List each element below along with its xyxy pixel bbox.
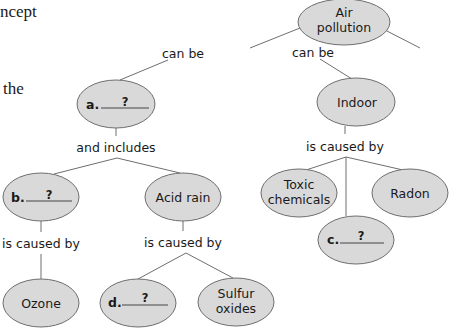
concept-map: Air pollution can be can be and includes… [0, 0, 451, 334]
link-is-caused-by-indoor: is caused by [306, 139, 384, 154]
node-d-question-mark: ? [142, 291, 149, 305]
node-air-pollution-line2: pollution [317, 20, 371, 35]
node-acid-rain: Acid rain [145, 173, 221, 221]
link-and-includes: and includes [76, 140, 155, 155]
node-c-question-mark: ? [358, 229, 365, 243]
link-is-caused-by-b: is caused by [2, 236, 80, 251]
node-ozone-label: Ozone [21, 296, 61, 311]
node-indoor: Indoor [317, 78, 395, 126]
node-radon-label: Radon [390, 186, 430, 201]
node-c-letter: c. [327, 232, 339, 247]
node-acid-rain-label: Acid rain [156, 190, 211, 205]
node-toxic-chemicals-line1: Toxic [283, 177, 315, 192]
node-sulfur-oxides-line2: oxides [216, 301, 256, 316]
node-radon: Radon [372, 169, 448, 217]
node-c-blank[interactable]: c. ? [318, 216, 394, 264]
node-air-pollution-line1: Air [335, 5, 353, 20]
node-b-question-mark: ? [46, 188, 53, 202]
node-indoor-label: Indoor [337, 95, 378, 110]
node-b-letter: b. [11, 190, 25, 205]
node-ozone: Ozone [3, 279, 79, 327]
node-b-blank[interactable]: b. ? [3, 173, 79, 221]
node-air-pollution: Air pollution [298, 0, 390, 45]
node-a-blank[interactable]: a. ? [77, 80, 155, 128]
node-a-letter: a. [86, 97, 99, 112]
node-toxic-chemicals: Toxic chemicals [261, 169, 337, 217]
node-toxic-chemicals-line2: chemicals [268, 192, 331, 207]
link-can-be-left: can be [162, 46, 204, 61]
link-can-be-right: can be [292, 45, 334, 60]
node-sulfur-oxides-line1: Sulfur [218, 286, 256, 301]
link-is-caused-by-acid-rain: is caused by [144, 235, 222, 250]
node-a-question-mark: ? [122, 95, 129, 109]
node-d-blank[interactable]: d. ? [100, 279, 176, 327]
node-sulfur-oxides: Sulfur oxides [198, 278, 274, 326]
node-d-letter: d. [108, 295, 122, 310]
